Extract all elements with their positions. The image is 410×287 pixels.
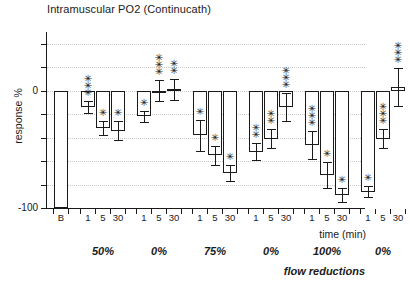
error-bar (174, 79, 175, 100)
significance-marker: ✳ (98, 109, 108, 116)
significance-marker: ✳ (251, 131, 261, 138)
error-bar (342, 188, 343, 202)
error-bar-cap (84, 101, 93, 102)
significance-marker: ✳ (363, 174, 373, 181)
y-axis-tick (41, 67, 46, 68)
y-axis-tick (41, 91, 46, 92)
significance-marker: ✳ (139, 99, 149, 106)
error-bar-cap (308, 159, 317, 160)
error-bar-cap (196, 120, 205, 121)
group-label: 0% (241, 245, 301, 257)
error-bar (230, 165, 231, 181)
error-bar-cap (338, 202, 347, 203)
x-axis-tick-label: B (50, 212, 72, 223)
error-bar-cap (394, 68, 403, 69)
y-axis-line (46, 32, 47, 208)
error-bar-cap (140, 111, 149, 112)
error-bar (88, 101, 89, 113)
error-bar-cap (338, 188, 347, 189)
significance-marker: ✳ (378, 117, 388, 124)
y-axis-tick (41, 208, 46, 209)
significance-marker: ✳ (169, 67, 179, 74)
error-bar-cap (226, 165, 235, 166)
gridline (47, 185, 365, 186)
page-title: Intramuscular PO2 (Continucath) (47, 3, 211, 15)
significance-marker: ✳ (281, 81, 291, 88)
error-bar (118, 121, 119, 140)
error-bar-cap (323, 162, 332, 163)
significance-marker: ✳ (225, 153, 235, 160)
error-bar-cap (394, 106, 403, 107)
error-bar-cap (226, 181, 235, 182)
error-bar-cap (155, 101, 164, 102)
error-bar-cap (170, 100, 179, 101)
error-bar-cap (282, 121, 291, 122)
y-axis-tick (41, 161, 46, 162)
error-bar-cap (170, 79, 179, 80)
error-bar-cap (114, 121, 123, 122)
error-bar-cap (252, 160, 261, 161)
significance-marker: ✳ (210, 134, 220, 141)
significance-marker: ✳ (266, 117, 276, 124)
x-axis-tick-label: 30 (107, 212, 129, 223)
significance-marker: ✳ (322, 150, 332, 157)
error-bar-cap (267, 148, 276, 149)
error-bar-cap (308, 131, 317, 132)
error-bar (159, 80, 160, 101)
bar (54, 91, 68, 208)
significance-marker: ✳ (307, 119, 317, 126)
significance-marker: ✳ (337, 176, 347, 183)
flow-reductions-caption: flow reductions (284, 265, 365, 277)
error-bar-cap (114, 140, 123, 141)
error-bar (383, 129, 384, 148)
significance-marker: ✳ (154, 68, 164, 75)
error-bar-cap (364, 197, 373, 198)
group-label: 75% (185, 245, 245, 257)
y-axis-tick (41, 114, 46, 115)
error-bar-cap (140, 122, 149, 123)
group-label: 50% (73, 245, 133, 257)
error-bar (286, 93, 287, 121)
error-bar-cap (282, 93, 291, 94)
error-bar-cap (379, 148, 388, 149)
significance-marker: ✳ (83, 89, 93, 96)
error-bar-cap (155, 80, 164, 81)
x-axis-tick-label: 30 (275, 212, 297, 223)
x-axis-tick-label: 30 (163, 212, 185, 223)
error-bar (200, 120, 201, 151)
y-axis-tick (41, 44, 46, 45)
significance-marker: ✳ (393, 56, 403, 63)
group-label: 100% (297, 245, 357, 257)
group-label: 0% (129, 245, 189, 257)
error-bar (215, 146, 216, 165)
error-bar-cap (323, 188, 332, 189)
error-bar (256, 143, 257, 159)
error-bar-cap (196, 151, 205, 152)
error-bar (103, 121, 104, 135)
gridline (47, 161, 365, 162)
gridline (47, 67, 365, 68)
y-axis-tick (41, 138, 46, 139)
error-bar (312, 131, 313, 159)
error-bar-cap (99, 135, 108, 136)
error-bar-cap (99, 121, 108, 122)
y-axis-tick-label: -100 (0, 202, 38, 213)
error-bar-cap (211, 165, 220, 166)
error-bar-cap (211, 146, 220, 147)
y-axis-tick (41, 185, 46, 186)
error-bar (144, 111, 145, 123)
error-bar-cap (379, 129, 388, 130)
group-label: 0% (353, 245, 410, 257)
error-bar (271, 129, 272, 148)
error-bar (368, 186, 369, 198)
gridline (47, 44, 365, 45)
error-bar-cap (252, 143, 261, 144)
error-bar-cap (84, 113, 93, 114)
error-bar-cap (364, 186, 373, 187)
significance-marker: ✳ (113, 109, 123, 116)
error-bar (398, 68, 399, 106)
error-bar-cap (267, 129, 276, 130)
x-axis-tick-label: 30 (219, 212, 241, 223)
x-axis-tick-label: 30 (331, 212, 353, 223)
